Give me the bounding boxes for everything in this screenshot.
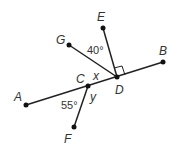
point-g xyxy=(67,43,72,48)
label-c: C xyxy=(76,72,85,86)
label-g: G xyxy=(56,33,65,47)
variable-x: x xyxy=(92,69,100,83)
point-d xyxy=(115,75,120,80)
label-d: D xyxy=(115,83,124,97)
geometry-diagram: A B C D E G F 40° 55° x y xyxy=(0,0,174,151)
point-b xyxy=(161,60,166,65)
variable-y: y xyxy=(89,90,97,104)
point-e xyxy=(101,26,106,31)
point-f xyxy=(72,125,77,130)
label-f: F xyxy=(64,132,72,146)
point-a xyxy=(24,103,29,108)
point-c xyxy=(86,84,91,89)
label-b: B xyxy=(159,44,167,58)
angle-55: 55° xyxy=(61,99,78,111)
label-e: E xyxy=(97,10,106,24)
label-a: A xyxy=(13,90,22,104)
angle-40: 40° xyxy=(87,44,104,56)
